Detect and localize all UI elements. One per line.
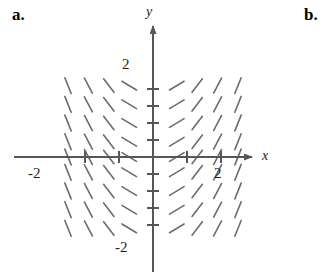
slope-segment	[65, 183, 71, 199]
slope-segment	[214, 115, 222, 130]
slope-segment	[235, 115, 241, 131]
slope-segment	[214, 202, 222, 217]
slope-segment	[192, 166, 202, 179]
slope-segment	[65, 115, 71, 131]
slope-segment	[192, 98, 202, 111]
tick-label-y-negative-2: -2	[115, 240, 128, 255]
slope-segment	[122, 224, 137, 233]
slope-segment	[84, 202, 92, 217]
slope-segment	[192, 116, 202, 129]
slope-segment	[235, 202, 241, 218]
slope-segment	[84, 165, 92, 180]
slope-segment	[104, 98, 114, 111]
part-label-b: b.	[304, 6, 318, 23]
slope-segment	[84, 134, 92, 149]
slope-segment	[235, 78, 241, 94]
slope-segment	[235, 134, 241, 150]
slope-segment	[104, 166, 114, 179]
slope-segment	[122, 205, 137, 214]
slope-segment	[170, 168, 185, 177]
slope-segment	[170, 100, 185, 109]
y-axis-label: y	[146, 5, 152, 19]
slope-segment	[192, 184, 202, 197]
slope-segment	[170, 187, 185, 196]
slope-segment	[84, 115, 92, 130]
slope-segment	[65, 164, 71, 180]
slope-segment	[65, 78, 71, 94]
slope-segment	[65, 202, 71, 218]
slope-segment	[214, 221, 222, 236]
slope-segment	[214, 78, 222, 93]
slope-segment	[84, 78, 92, 93]
slope-segment	[65, 96, 71, 112]
slope-segment	[214, 134, 222, 149]
slope-field-figure: a. b. x y 2 -2 -2 2	[0, 0, 336, 274]
slope-segment	[122, 81, 137, 90]
slope-segment	[235, 164, 241, 180]
slope-segment	[122, 137, 137, 146]
slope-segment	[65, 134, 71, 150]
slope-segment	[170, 119, 185, 128]
tick-label-y-positive-2: 2	[122, 57, 130, 72]
slope-segment	[170, 205, 185, 214]
slope-segment	[192, 135, 202, 148]
slope-segment	[104, 116, 114, 129]
tick-label-x-negative-2: -2	[28, 166, 41, 181]
slope-segment	[235, 96, 241, 112]
tick-label-x-positive-2: 2	[214, 166, 222, 181]
slope-segment	[84, 183, 92, 198]
slope-segment	[104, 222, 114, 235]
slope-segment	[104, 203, 114, 216]
slope-segment	[170, 137, 185, 146]
slope-segment	[235, 183, 241, 199]
slope-segment	[104, 79, 114, 92]
slope-segment	[122, 187, 137, 196]
slope-segment	[84, 221, 92, 236]
slope-segment	[214, 183, 222, 198]
slope-segment	[65, 221, 71, 237]
slope-segment	[170, 224, 185, 233]
x-axis-label: x	[262, 149, 268, 163]
plot-panel: x y 2 -2 -2 2	[0, 0, 290, 274]
slope-segment	[192, 222, 202, 235]
slope-segment	[104, 184, 114, 197]
slope-segment	[104, 135, 114, 148]
slope-segment	[214, 97, 222, 112]
slope-segment	[122, 100, 137, 109]
slope-segment	[192, 79, 202, 92]
slope-segment	[122, 119, 137, 128]
slope-field-plot	[0, 0, 290, 274]
slope-segment	[84, 97, 92, 112]
slope-segment	[235, 221, 241, 237]
slope-segment	[192, 203, 202, 216]
slope-segment	[122, 168, 137, 177]
slope-segment	[170, 81, 185, 90]
